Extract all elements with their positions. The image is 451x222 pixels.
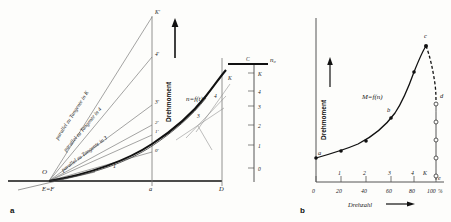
panel-b-x-unit: % bbox=[438, 188, 443, 194]
panel-a-pole-label-1: 1' bbox=[155, 129, 160, 134]
panel-a-point-3: 3 bbox=[196, 113, 200, 119]
panel-b-xtick-20: 20 bbox=[336, 188, 342, 194]
panel-b-curve-rising bbox=[316, 46, 426, 158]
panel-a-pole-label-4: 4' bbox=[155, 51, 160, 57]
panel-b-step-3: 3 bbox=[387, 170, 391, 176]
panel-a-tick-3: 3 bbox=[257, 104, 261, 110]
panel-a-pole-label-0: 0' bbox=[155, 148, 160, 153]
panel-b-point-c: c bbox=[424, 32, 427, 39]
panel-a-abscissa-label: a bbox=[149, 185, 152, 192]
panel-b-point-e: e bbox=[438, 175, 441, 181]
panel-b-point-b: b bbox=[387, 106, 391, 113]
panel-b-point-d: d bbox=[440, 92, 444, 99]
panel-b-caption: b bbox=[300, 206, 305, 215]
panel-a-scale-ticks bbox=[248, 73, 254, 168]
panel-b-y-arrow bbox=[327, 57, 333, 87]
panel-b-x-arrow bbox=[386, 201, 415, 206]
panel-a-moment-arrow bbox=[172, 18, 179, 58]
figure-root: Drehmoment parallel zu Tangente in K par… bbox=[0, 0, 451, 222]
panel-b-curve-dashed bbox=[426, 46, 436, 104]
panel-a-tangent-K bbox=[196, 84, 230, 132]
panel-b-x-ticks bbox=[316, 176, 436, 182]
panel-b-step-2: 2 bbox=[363, 170, 366, 176]
panel-a-moment-axis-label: Drehmoment bbox=[165, 81, 172, 122]
panel-b-xtick-40: 40 bbox=[361, 188, 367, 194]
panel-a-ray-bundle bbox=[49, 17, 152, 181]
panel-a-point-4: 4 bbox=[214, 93, 217, 99]
panel-a-ray-4 bbox=[49, 57, 152, 181]
panel-b-xtick-100: 100 bbox=[427, 188, 436, 194]
panel-a-point-K: K bbox=[227, 75, 232, 81]
panel-a-origin-label: O bbox=[42, 168, 47, 176]
panel-a-pole-label-K: K' bbox=[154, 9, 161, 15]
panel-b-curve-label: M=f(n) bbox=[361, 93, 383, 101]
panel-b-xtick-0: 0 bbox=[312, 188, 315, 194]
panel-b-step-1: 1 bbox=[338, 170, 341, 176]
panel-a-tick-0: 0 bbox=[258, 166, 261, 172]
panel-b-x-axis-label: Drehzahl bbox=[347, 201, 372, 208]
panel-a-right-axis-label: D bbox=[218, 185, 224, 192]
panel-a-integral-curve bbox=[49, 70, 226, 181]
panel-a-tangent-3 bbox=[176, 108, 224, 140]
panel-a-tick-K: K bbox=[257, 71, 262, 77]
panel-b-y-axis-label: Drehmoment bbox=[320, 99, 327, 140]
panel-a-curve-label: n=f(t) bbox=[186, 95, 203, 103]
panel-a-tick-1: 1 bbox=[258, 143, 261, 149]
panel-a-n0-label: n₀ bbox=[270, 56, 277, 64]
panel-a-pole-label-3: 3' bbox=[154, 99, 160, 105]
panel-a-tick-4: 4 bbox=[258, 89, 261, 95]
panel-a-ray-label-K: parallel zu Tangente in K bbox=[53, 90, 90, 142]
panel-a-point-1: 1 bbox=[113, 163, 116, 169]
figure-svg: Drehmoment parallel zu Tangente in K par… bbox=[0, 0, 451, 222]
panel-b: Drehmoment 0 20 40 60 80 100 % 1 2 3 4 K bbox=[300, 18, 444, 215]
panel-a-tangent-aux bbox=[198, 126, 212, 150]
panel-a-base-point-label: E=F bbox=[41, 185, 55, 192]
panel-b-xtick-60: 60 bbox=[386, 188, 392, 194]
panel-a-pole-label-2: 2' bbox=[155, 120, 160, 125]
panel-b-step-4: 4 bbox=[411, 170, 414, 176]
panel-b-xtick-80: 80 bbox=[409, 188, 415, 194]
panel-b-step-K: K bbox=[422, 170, 428, 176]
panel-b-point-a: a bbox=[318, 149, 321, 156]
panel-a-peak-label: C bbox=[246, 56, 250, 62]
panel-a-tick-2: 2 bbox=[258, 123, 261, 129]
panel-a-caption: a bbox=[10, 206, 15, 215]
panel-a: Drehmoment parallel zu Tangente in K par… bbox=[8, 9, 277, 215]
